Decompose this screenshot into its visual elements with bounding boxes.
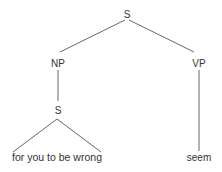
node-embedded-s: S <box>55 105 62 116</box>
node-vp: VP <box>192 58 206 69</box>
node-np: NP <box>51 58 65 69</box>
leaf-for-you-to-be-wrong: for you to be wrong <box>12 152 102 163</box>
syntax-tree: S NP VP S for you to be wrong seem <box>0 0 222 172</box>
triangle-embedded-s <box>13 119 101 152</box>
leaf-seem: seem <box>187 152 211 163</box>
edge-s-np <box>60 20 125 52</box>
edge-s-vp <box>129 20 194 52</box>
node-root-s: S <box>124 9 131 20</box>
